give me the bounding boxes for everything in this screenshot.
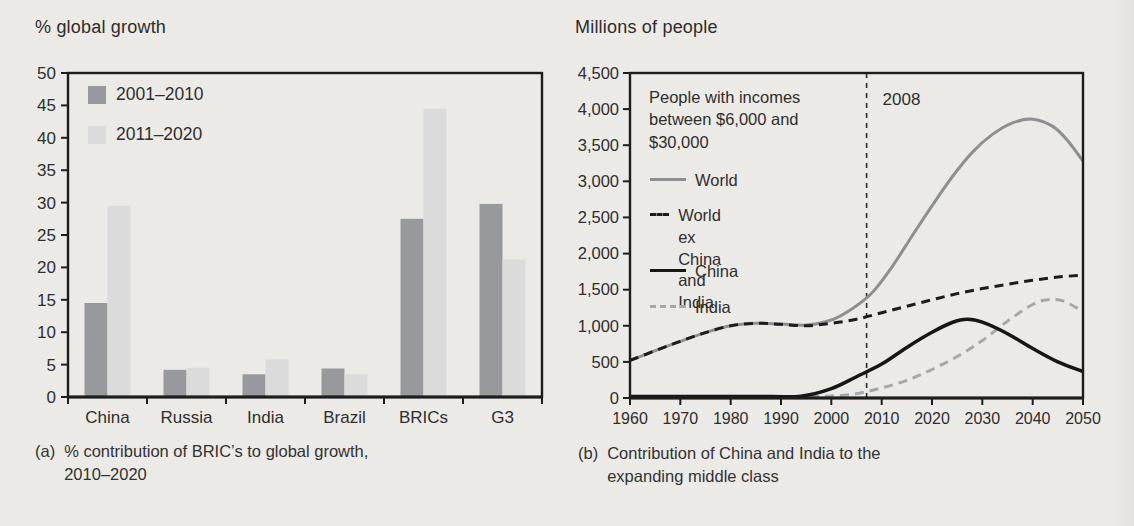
caption-a-line1: % contribution of BRIC’s to global growt…: [64, 442, 368, 460]
svg-text:1990: 1990: [763, 410, 799, 427]
scanned-figure-page: { "page": { "background": "#eceae6", "ax…: [0, 0, 1134, 526]
svg-text:2000: 2000: [814, 410, 850, 427]
bar-Russia-0: [164, 370, 187, 397]
svg-text:45: 45: [37, 96, 56, 115]
bar-chart-svg: 05101520253035404550ChinaRussiaIndiaBraz…: [0, 50, 560, 435]
svg-text:2010: 2010: [864, 410, 900, 427]
caption-b-line2: expanding middle class: [607, 467, 779, 485]
svg-text:2040: 2040: [1015, 410, 1051, 427]
caption-b: (b) Contribution of China and India to t…: [578, 442, 881, 489]
y-axis-ticks: 05101520253035404550: [37, 64, 68, 407]
svg-text:1970: 1970: [663, 410, 699, 427]
svg-text:2030: 2030: [965, 410, 1001, 427]
caption-a-text: % contribution of BRIC’s to global growt…: [64, 440, 368, 487]
svg-text:4,500: 4,500: [578, 64, 619, 82]
annotation-line: between $6,000 and: [649, 110, 799, 128]
world-line-sample: [650, 178, 686, 181]
china-line-sample: [650, 269, 686, 272]
bar-India-0: [243, 374, 266, 397]
legend-label: 2011–2020: [116, 124, 202, 145]
legend-item-india: India: [650, 297, 731, 319]
annotation-line: $30,000: [649, 133, 709, 151]
caption-a-line2: 2010–2020: [64, 465, 147, 483]
page-edge-shading: [1110, 0, 1134, 526]
svg-text:5: 5: [47, 356, 56, 375]
legend-label: India: [695, 297, 731, 319]
svg-text:1,000: 1,000: [578, 317, 619, 335]
legend-swatch-dark: [88, 86, 106, 104]
india-line-sample: [650, 305, 686, 308]
svg-text:30: 30: [37, 194, 56, 213]
bar-Brazil-0: [322, 369, 345, 398]
svg-text:10: 10: [37, 323, 56, 342]
bar-chart-title: % global growth: [35, 17, 166, 38]
svg-text:3,500: 3,500: [578, 136, 619, 154]
caption-a: (a) % contribution of BRIC’s to global g…: [35, 440, 368, 487]
svg-text:25: 25: [37, 226, 56, 245]
svg-text:G3: G3: [491, 408, 514, 427]
svg-text:35: 35: [37, 161, 56, 180]
bar-BRICs-0: [401, 219, 424, 397]
caption-b-text: Contribution of China and India to the e…: [607, 442, 880, 489]
svg-text:2,000: 2,000: [578, 244, 619, 262]
svg-text:0: 0: [610, 389, 619, 407]
legend-item-2001-2010: 2001–2010: [88, 84, 204, 105]
income-range-annotation: People with incomes between $6,000 and $…: [649, 86, 869, 153]
svg-text:3,000: 3,000: [578, 172, 619, 190]
bar-BRICs-1: [424, 109, 447, 397]
legend-label: 2001–2010: [116, 84, 204, 105]
bar-India-1: [266, 359, 289, 397]
svg-text:50: 50: [37, 64, 56, 83]
caption-a-index: (a): [35, 440, 55, 487]
world-ex-line-sample: [650, 213, 669, 216]
category-labels: ChinaRussiaIndiaBrazilBRICsG3: [85, 408, 514, 427]
bar-G3-1: [503, 260, 526, 397]
svg-text:BRICs: BRICs: [399, 408, 448, 427]
legend-label: China: [695, 261, 738, 283]
annotation-line: People with incomes: [649, 88, 800, 106]
svg-text:1960: 1960: [612, 410, 648, 427]
svg-text:0: 0: [47, 388, 56, 407]
svg-text:500: 500: [591, 353, 619, 371]
bar-G3-0: [480, 204, 503, 397]
y-axis-ticks: 05001,0001,5002,0002,5003,0003,5004,0004…: [578, 64, 630, 407]
svg-text:2,500: 2,500: [578, 208, 619, 226]
bar-Brazil-1: [345, 374, 368, 397]
svg-text:2050: 2050: [1065, 410, 1101, 427]
svg-text:China: China: [85, 408, 130, 427]
svg-text:15: 15: [37, 291, 56, 310]
legend-label: World: [695, 170, 738, 192]
legend-item-2011-2020: 2011–2020: [88, 124, 204, 145]
caption-b-line1: Contribution of China and India to the: [607, 444, 880, 462]
caption-b-index: (b): [578, 442, 598, 489]
bar-China-1: [108, 206, 131, 397]
svg-text:4,000: 4,000: [578, 100, 619, 118]
legend-item-world: World: [650, 170, 738, 192]
x-axis-ticks: 1960197019801990200020102020203020402050: [612, 398, 1101, 427]
line-chart-title: Millions of people: [575, 17, 718, 38]
svg-text:Russia: Russia: [161, 408, 214, 427]
bar-China-0: [85, 303, 108, 397]
bar-chart-legend: 2001–2010 2011–2020: [88, 84, 204, 164]
series-line-2: [630, 319, 1083, 397]
legend-item-china: China: [650, 261, 738, 283]
vline-year-label: 2008: [883, 90, 921, 110]
bar-Russia-1: [187, 368, 210, 397]
legend-swatch-light: [88, 126, 106, 144]
svg-text:2020: 2020: [914, 410, 950, 427]
svg-text:Brazil: Brazil: [323, 408, 366, 427]
svg-text:India: India: [247, 408, 284, 427]
svg-text:1980: 1980: [713, 410, 749, 427]
svg-text:1,500: 1,500: [578, 280, 619, 298]
svg-text:20: 20: [37, 258, 56, 277]
svg-text:40: 40: [37, 129, 56, 148]
